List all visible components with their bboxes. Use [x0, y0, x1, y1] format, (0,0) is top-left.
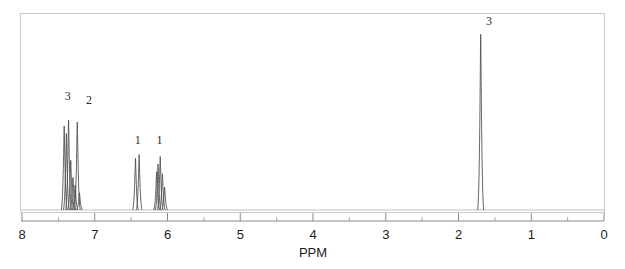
x-tick-label-8: 8 [18, 228, 25, 241]
nmr-spectrum-figure: 32113 876543210 PPM [0, 0, 625, 269]
x-tick-label-6: 6 [164, 228, 171, 241]
peak-label-1: 2 [86, 94, 92, 106]
axis-line-group [21, 213, 604, 221]
x-tick-label-0: 0 [600, 228, 607, 241]
x-tick-label-3: 3 [382, 228, 389, 241]
x-tick-label-1: 1 [528, 228, 535, 241]
x-tick-label-5: 5 [237, 228, 244, 241]
x-tick-label-2: 2 [455, 228, 462, 241]
x-tick-label-7: 7 [91, 228, 98, 241]
x-tick-label-4: 4 [309, 228, 316, 241]
peak-label-3: 1 [156, 134, 162, 146]
trace-path-group [21, 34, 604, 210]
axis-title-ppm: PPM [299, 246, 327, 259]
peak-label-0: 3 [65, 90, 71, 102]
peak-label-4: 3 [486, 15, 492, 27]
peak-label-2: 1 [135, 134, 141, 146]
